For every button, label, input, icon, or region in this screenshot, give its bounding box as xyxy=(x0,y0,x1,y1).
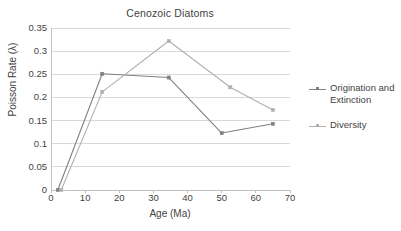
data-point-marker xyxy=(229,86,232,89)
data-point-marker xyxy=(167,39,170,42)
data-point-marker xyxy=(271,108,274,111)
y-axis-tick-label: 0.15 xyxy=(19,115,47,126)
y-axis-tick-label: 0.2 xyxy=(19,91,47,102)
legend-marker-icon xyxy=(316,87,319,90)
x-axis-title: Age (Ma) xyxy=(50,208,290,219)
gridlines xyxy=(51,28,290,190)
plot-area xyxy=(51,28,290,190)
x-axis-tick-label: 70 xyxy=(277,192,303,203)
data-point-marker xyxy=(101,90,104,93)
x-axis-tick-label: 40 xyxy=(175,192,201,203)
legend-marker-icon xyxy=(316,124,319,127)
legend-label-line-1: Origination and xyxy=(330,82,394,93)
legend-label-line-2: Extinction xyxy=(330,94,371,105)
data-point-marker xyxy=(220,131,223,134)
data-point-marker xyxy=(101,72,104,75)
chart-title: Cenozoic Diatoms xyxy=(50,7,290,19)
x-axis-tick-label: 60 xyxy=(243,192,269,203)
y-axis-tick-label: 0.35 xyxy=(19,22,47,33)
legend-item-diversity[interactable]: Diversity xyxy=(309,119,399,131)
y-axis-tick-label: 0.25 xyxy=(19,68,47,79)
data-point-marker xyxy=(167,76,170,79)
legend-swatch-icon xyxy=(309,121,326,131)
chart-container: Cenozoic Diatoms Poisson Rate (λ) Age (M… xyxy=(0,0,401,231)
data-point-marker xyxy=(56,188,59,191)
legend-item-origination-and-extinction[interactable]: Origination and Extinction xyxy=(309,82,399,106)
x-axis-tick-label: 20 xyxy=(106,192,132,203)
series-line-0 xyxy=(58,74,273,190)
y-axis-tick-labels: 00.050.10.150.20.250.30.35 xyxy=(14,28,47,190)
y-axis-tick-label: 0.05 xyxy=(19,161,47,172)
series-line-1 xyxy=(61,41,273,190)
y-axis-tick-label: 0.1 xyxy=(19,138,47,149)
plot-svg xyxy=(51,28,290,190)
x-axis-tick-labels: 010203040506070 xyxy=(51,192,301,206)
legend-label-diversity: Diversity xyxy=(330,119,366,131)
legend-label-origination-and-extinction: Origination and Extinction xyxy=(330,82,394,106)
legend-swatch-icon xyxy=(309,84,326,94)
legend-label-line-1: Diversity xyxy=(330,119,366,130)
data-point-marker xyxy=(271,122,274,125)
axis-lines xyxy=(51,28,290,193)
data-point-marker xyxy=(60,188,63,191)
y-axis-tick-label: 0.3 xyxy=(19,45,47,56)
x-axis-tick-label: 10 xyxy=(72,192,98,203)
data-series-layer xyxy=(56,39,274,191)
x-axis-tick-label: 50 xyxy=(209,192,235,203)
chart-legend: Origination and Extinction Diversity xyxy=(309,82,399,144)
x-axis-tick-label: 30 xyxy=(140,192,166,203)
x-axis-tick-label: 0 xyxy=(38,192,64,203)
